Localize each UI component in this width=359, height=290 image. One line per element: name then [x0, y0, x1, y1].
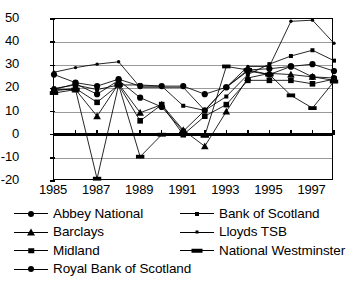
legend-label: Barclays	[53, 225, 104, 239]
legend-item-bank-of-scotland[interactable]: Bank of Scotland	[180, 205, 319, 222]
legend-marker-dot-icon	[180, 225, 214, 239]
legend-marker	[196, 231, 199, 234]
legend-marker-bar-icon	[180, 244, 214, 258]
x-axis-tick-label: 1997	[286, 183, 336, 196]
legend-item-barclays[interactable]: Barclays	[14, 224, 104, 241]
legend-marker-circle-icon	[14, 207, 48, 221]
legend-item-abbey-national[interactable]: Abbey National	[14, 205, 143, 222]
legend-marker-triangle-icon	[14, 225, 48, 239]
legend-marker	[195, 212, 199, 216]
legend-marker	[27, 229, 35, 236]
legend-marker	[28, 248, 34, 254]
legend-marker	[28, 266, 34, 272]
bank-returns-chart-figure: -20-1001020304050 1985198719891991199319…	[0, 0, 359, 290]
legend-item-royal-bank-of-scotland[interactable]: Royal Bank of Scotland	[14, 261, 191, 278]
legend-marker-square-small-icon	[180, 207, 214, 221]
legend-marker	[28, 211, 34, 217]
legend-label: Royal Bank of Scotland	[53, 262, 191, 276]
legend-label: Midland	[53, 244, 100, 258]
legend-item-national-westminster[interactable]: National Westminster	[180, 242, 345, 259]
legend-label: Lloyds TSB	[219, 225, 287, 239]
legend-marker	[192, 248, 203, 253]
legend-marker-circle-icon	[14, 262, 48, 276]
chart-legend: Abbey NationalBank of ScotlandBarclaysLl…	[14, 205, 354, 287]
legend-label: National Westminster	[219, 244, 345, 258]
legend-label: Abbey National	[53, 207, 143, 221]
legend-marker-square-icon	[14, 244, 48, 258]
legend-item-midland[interactable]: Midland	[14, 242, 100, 259]
legend-item-lloyds-tsb[interactable]: Lloyds TSB	[180, 224, 287, 241]
legend-label: Bank of Scotland	[219, 207, 319, 221]
